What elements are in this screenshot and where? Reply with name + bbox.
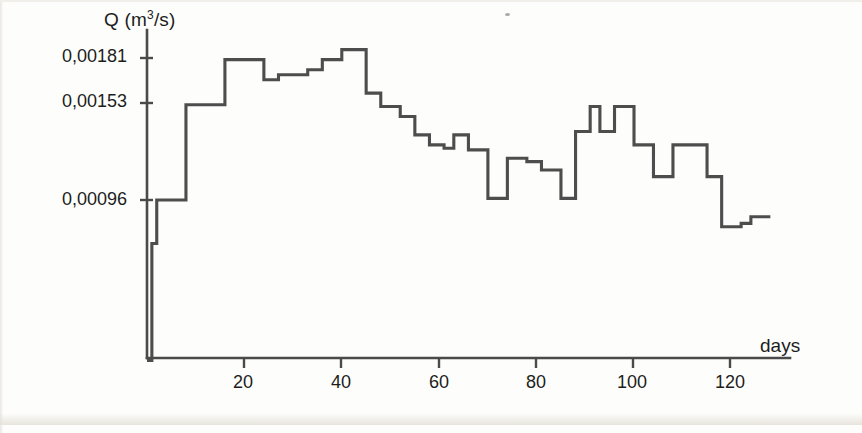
y-tick-label-mid: 0,00153 [27,91,127,112]
y-axis-title: Q (m3/s) [104,8,176,31]
discharge-series-line [147,50,770,361]
x-tick-label-120: 120 [700,372,760,393]
y-tick-label-top: 0,00181 [27,46,127,67]
x-axis-title: days [760,335,800,357]
hydrograph-svg [0,0,862,433]
x-tick-label-40: 40 [311,372,371,393]
y-tick-label-bottom: 0,00096 [27,189,127,210]
chart-plot-area: Q (m3/s) 0,00181 0,00153 0,00096 20 40 6… [0,0,862,433]
scanned-chart-page: Q (m3/s) 0,00181 0,00153 0,00096 20 40 6… [0,0,862,433]
x-tick-label-100: 100 [602,372,662,393]
y-axis-title-exponent: 3 [147,8,154,22]
x-tick-label-60: 60 [409,372,469,393]
x-tick-label-20: 20 [213,372,273,393]
x-tick-label-80: 80 [506,372,566,393]
